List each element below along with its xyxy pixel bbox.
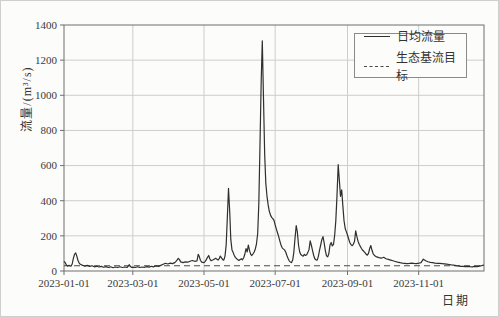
x-tick-label: 2023-01-01 — [38, 277, 89, 289]
y-tick-label: 1200 — [35, 54, 58, 66]
y-tick-label: 400 — [41, 195, 58, 207]
legend-label-eco-target: 生态基流目标 — [396, 48, 466, 84]
dashed-line-sample — [364, 66, 389, 67]
legend-item-daily-flow: 日均流量 — [364, 27, 466, 45]
y-tick-label: 600 — [41, 159, 58, 171]
x-tick-label: 2023-05-01 — [178, 277, 229, 289]
x-tick-label: 2023-07-01 — [250, 277, 301, 289]
y-tick-label: 0 — [52, 265, 58, 277]
solid-line-sample — [364, 36, 390, 37]
y-axis-label: 流量/(m³/s) — [17, 34, 35, 164]
x-tick-label: 2023-09-01 — [322, 277, 373, 289]
y-tick-label: 800 — [41, 124, 58, 136]
y-tick-label: 200 — [41, 230, 58, 242]
figure: 02004006008001000120014002023-01-012023-… — [0, 0, 499, 317]
legend-label-daily-flow: 日均流量 — [397, 27, 445, 45]
y-tick-label: 1000 — [35, 89, 58, 101]
x-axis-label: 日期 — [442, 291, 470, 309]
legend: 日均流量 生态基流目标 — [354, 33, 467, 78]
x-tick-label: 2023-03-01 — [107, 277, 158, 289]
y-tick-label: 1400 — [35, 19, 58, 31]
x-tick-label: 2023-11-01 — [393, 277, 444, 289]
legend-item-eco-target: 生态基流目标 — [364, 48, 466, 84]
